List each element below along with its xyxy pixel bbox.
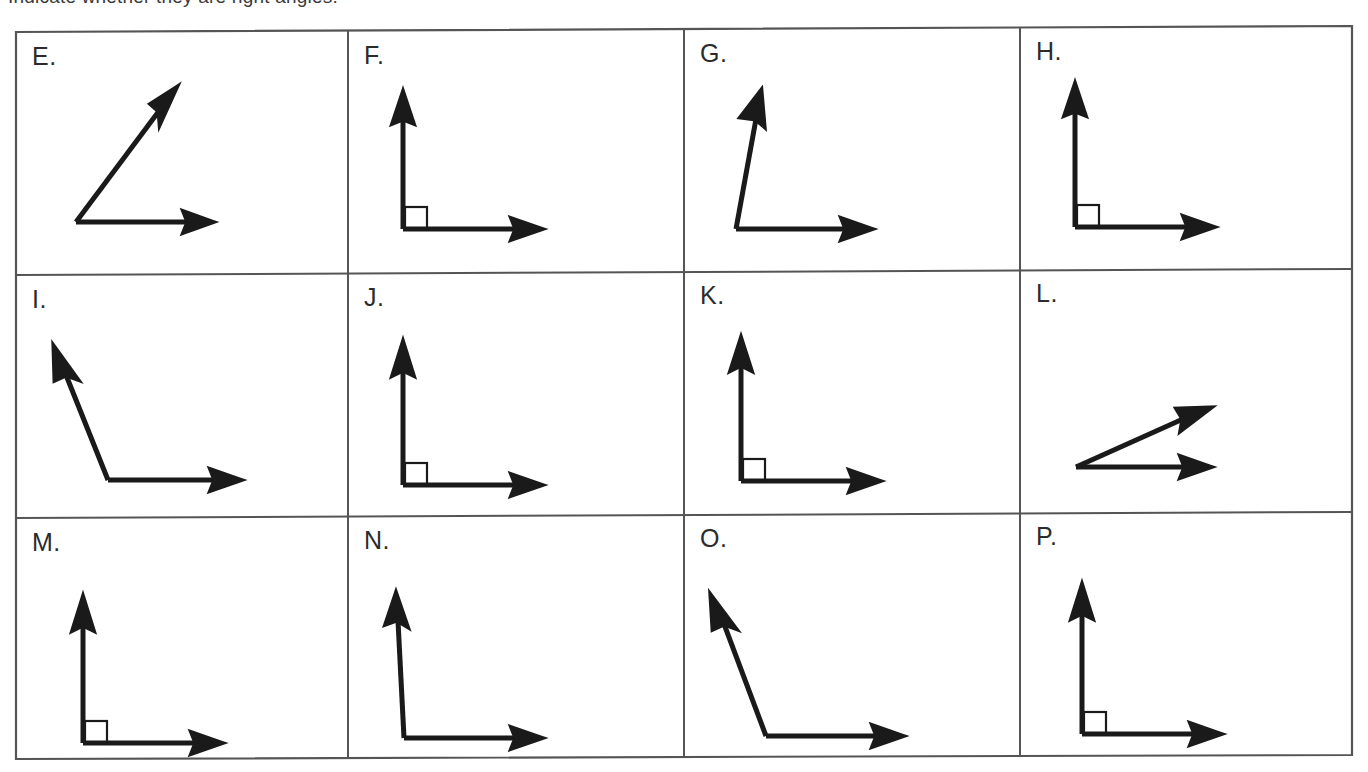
angle-cell-g[interactable]: G. xyxy=(684,29,1020,275)
angle-cell-f[interactable]: F. xyxy=(348,31,684,275)
angle-figure-p xyxy=(1020,512,1352,755)
angle-figure-m xyxy=(16,518,348,759)
right-angle-mark-h xyxy=(1077,205,1099,227)
instruction-text: Indicate whether they are right angles. xyxy=(8,0,338,8)
angle-figure-o xyxy=(684,514,1020,755)
angle-grid-table: E. F. G. xyxy=(14,24,1354,761)
angle-figure-f xyxy=(348,31,684,275)
right-angle-mark-p xyxy=(1084,712,1106,734)
angle-cell-n[interactable]: N. xyxy=(348,516,684,757)
angle-cell-l[interactable]: L. xyxy=(1020,269,1352,512)
right-angle-mark-f xyxy=(405,207,427,229)
angle-cell-m[interactable]: M. xyxy=(16,518,348,759)
angle-cell-j[interactable]: J. xyxy=(348,273,684,516)
angle-figure-h xyxy=(1020,27,1352,275)
right-angle-mark-k xyxy=(743,459,765,481)
right-angle-mark-m xyxy=(85,721,107,743)
angle-cell-e[interactable]: E. xyxy=(16,32,348,275)
angle-cell-h[interactable]: H. xyxy=(1020,27,1352,275)
angle-cell-o[interactable]: O. xyxy=(684,514,1020,755)
angle-figure-l xyxy=(1020,269,1352,512)
angle-figure-n xyxy=(348,516,684,757)
instruction-strip: Indicate whether they are right angles. xyxy=(0,0,1368,17)
angle-figure-k xyxy=(684,271,1020,514)
angle-figure-i xyxy=(16,275,348,518)
angle-cell-k[interactable]: K. xyxy=(684,271,1020,514)
angle-figure-g xyxy=(684,29,1020,275)
angle-figure-e xyxy=(16,32,348,275)
angle-figure-j xyxy=(348,273,684,516)
angle-cell-i[interactable]: I. xyxy=(16,275,348,518)
angle-cell-p[interactable]: P. xyxy=(1020,512,1352,755)
right-angle-mark-j xyxy=(405,463,427,485)
